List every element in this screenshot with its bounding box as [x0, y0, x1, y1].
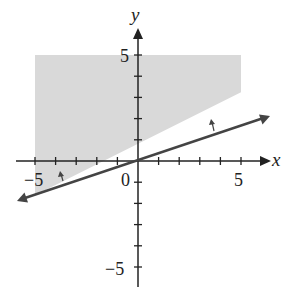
y-axis-arrow-icon [133, 28, 143, 39]
inequality-graph: y x 5 −5 −5 5 0 [0, 0, 282, 287]
x-tick-label-neg5: −5 [24, 170, 43, 190]
x-tick-label-5: 5 [234, 170, 243, 190]
x-axis-arrow-icon [260, 156, 271, 166]
y-axis-label: y [129, 4, 140, 25]
origin-label: 0 [121, 170, 130, 190]
y-tick-label-neg5: −5 [105, 259, 124, 279]
x-axis-label: x [271, 149, 281, 170]
y-tick-label-5: 5 [120, 46, 129, 66]
